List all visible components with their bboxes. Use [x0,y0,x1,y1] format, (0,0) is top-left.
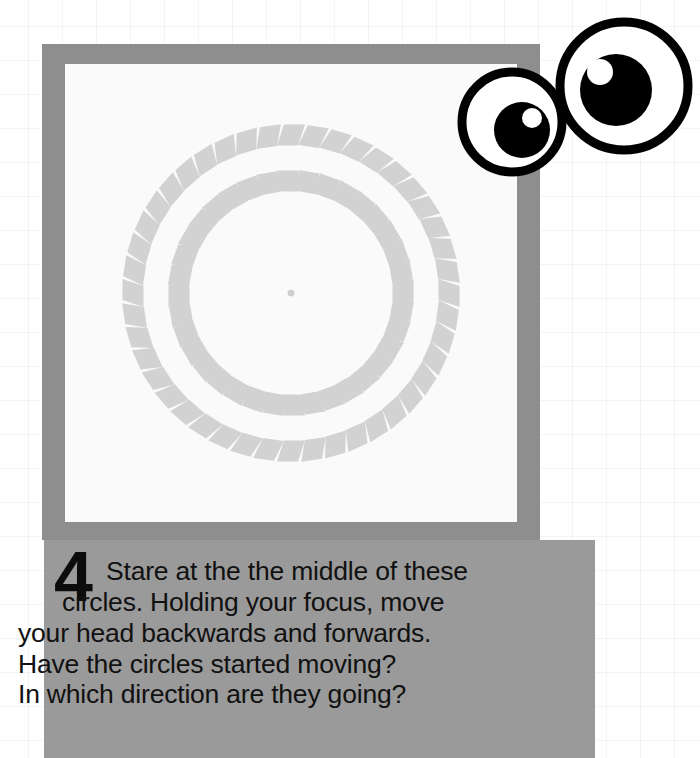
illusion-tile [215,134,237,165]
illusion-tile [125,327,153,348]
caption-text: Stare at the the middle of these circles… [62,556,577,710]
caption-line-2: circles. Holding your focus, move [62,587,444,617]
eyes-svg [450,6,700,196]
illusion-tile [389,301,415,325]
illusion-tile [256,124,281,149]
caption-line-4: Have the circles started moving? [18,649,396,679]
illusion-tile [346,421,368,452]
illusion-tile [435,258,460,283]
left-eye-pupil [494,102,550,158]
right-eye [560,22,688,150]
caption-line-5: In which direction are they going? [18,679,406,709]
center-fixation-dot [288,290,295,297]
caption-line-1: Stare at the the middle of these [106,556,468,586]
right-eye-highlight [587,59,613,85]
illusion-tile [122,303,147,328]
illusion-tile [132,348,163,370]
illusion-tile [168,262,194,286]
left-eye [462,72,562,172]
caption-line-3: your head backwards and forwards. [18,618,431,648]
googly-eyes-illustration [450,6,700,196]
left-eye-highlight [522,108,542,128]
illusion-tile [260,391,284,417]
illusion-tile [236,127,257,155]
caption-block: 4 Stare at the the middle of these circl… [44,540,595,758]
illusion-tile [301,437,326,462]
illusion-tile [299,170,323,196]
illusion-puzzle-page: 4 Stare at the the middle of these circl… [0,0,700,758]
caption-tail: your head backwards and forwards. Have t… [18,618,431,711]
illusion-tile [429,238,457,259]
illusion-tile [419,217,450,239]
illusion-tile [325,431,346,459]
